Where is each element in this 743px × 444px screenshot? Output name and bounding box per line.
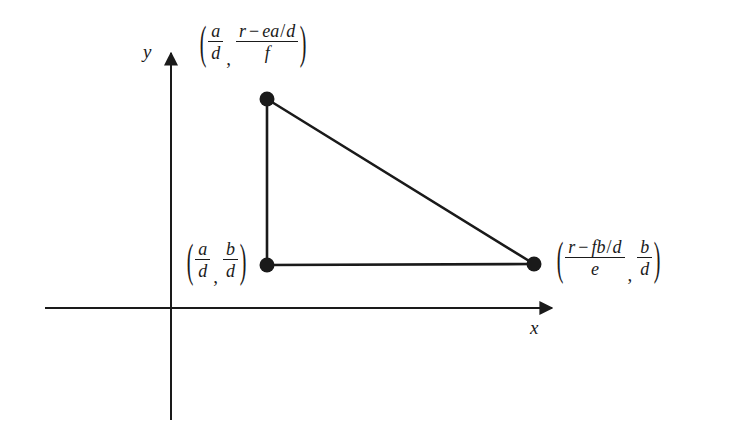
- open-paren: (: [556, 235, 565, 282]
- numerator: b: [637, 238, 652, 257]
- term-fb: fb: [592, 237, 606, 257]
- comma-separator: ,: [211, 267, 222, 286]
- close-paren: ): [653, 235, 662, 282]
- bottom-right-vertex-point: [527, 257, 542, 272]
- minus-operator: −: [246, 21, 262, 41]
- fraction-a-over-d: a d: [208, 22, 223, 62]
- denominator: e: [565, 257, 624, 278]
- numerator: r−ea/d: [236, 22, 298, 41]
- bottom-left-vertex-point: [260, 258, 275, 273]
- fraction-r-minus-fb-over-d-over-e: r−fb/d e: [565, 238, 624, 278]
- fraction-b-over-d: b d: [223, 240, 238, 280]
- numerator: r−fb/d: [565, 238, 624, 257]
- numerator: a: [208, 22, 223, 41]
- top-vertex-point: [260, 92, 275, 107]
- numerator: b: [223, 240, 238, 259]
- top-vertex-label: ( a d , r−ea/d f ): [199, 22, 308, 62]
- fraction-a-over-d: a d: [195, 240, 210, 280]
- fraction-r-minus-ea-over-d-over-f: r−ea/d f: [236, 22, 298, 62]
- comma-separator: ,: [224, 49, 235, 68]
- denominator: d: [223, 259, 238, 280]
- close-paren: ): [299, 19, 308, 66]
- term-d: d: [286, 21, 295, 41]
- coordinate-diagram: [0, 0, 743, 444]
- minus-operator: −: [575, 237, 591, 257]
- close-paren: ): [239, 237, 248, 284]
- open-paren: (: [186, 237, 195, 284]
- x-axis-label: x: [530, 318, 538, 337]
- term-ea: ea: [262, 21, 279, 41]
- term-d: d: [613, 237, 622, 257]
- denominator: d: [208, 41, 223, 62]
- denominator: d: [637, 257, 652, 278]
- comma-separator: ,: [626, 265, 637, 284]
- denominator: d: [195, 259, 210, 280]
- denominator: f: [236, 41, 298, 62]
- bottom-left-vertex-label: ( a d , b d ): [186, 240, 247, 280]
- triangle-hypotenuse: [267, 99, 534, 264]
- fraction-b-over-d: b d: [637, 238, 652, 278]
- numerator: a: [195, 240, 210, 259]
- bottom-right-vertex-label: ( r−fb/d e , b d ): [556, 238, 662, 278]
- slash-operator: /: [606, 237, 613, 257]
- y-axis-label: y: [143, 42, 151, 61]
- open-paren: (: [199, 19, 208, 66]
- triangle-horizontal-leg: [267, 264, 534, 265]
